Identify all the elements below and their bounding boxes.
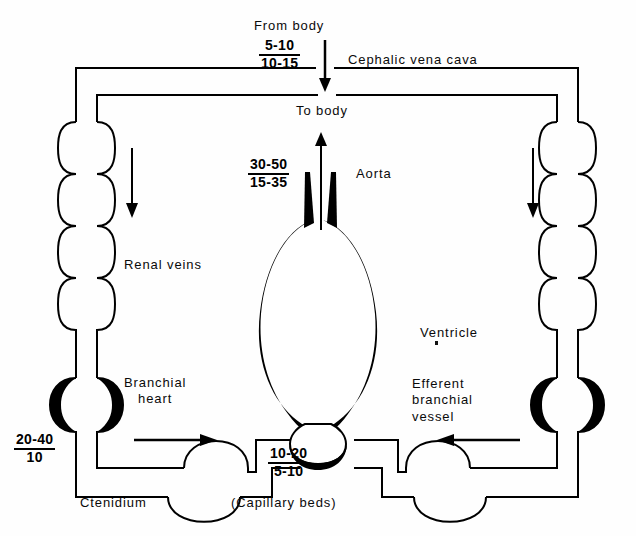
label-cephalic-vena-cava: Cephalic vena cava [348, 52, 478, 68]
pressure-branchial-heart-diastolic: 10 [14, 450, 55, 466]
label-renal-veins: Renal veins [124, 257, 202, 273]
label-branchial-heart-line2: heart [124, 391, 186, 407]
pressure-aorta-diastolic: 15-35 [248, 175, 289, 191]
pressure-efferent-branchial-systolic: 10-20 [268, 446, 309, 464]
pressure-efferent-branchial: 10-20 5-10 [268, 446, 309, 479]
label-ventricle: Ventricle [420, 325, 478, 341]
pressure-aorta: 30-50 15-35 [248, 157, 289, 190]
label-ctenidium: Ctenidium [80, 495, 147, 511]
pressure-efferent-branchial-diastolic: 5-10 [268, 464, 309, 480]
label-branchial-heart-line1: Branchial [124, 375, 186, 391]
label-efferent-line3: vessel [412, 409, 473, 425]
circulatory-diagram-svg [0, 0, 636, 536]
label-to-body: To body [296, 103, 348, 119]
label-branchial-heart: Branchial heart [124, 375, 186, 408]
pressure-vena-cava-diastolic: 10-15 [259, 56, 300, 72]
label-efferent-line1: Efferent [412, 376, 473, 392]
label-aorta: Aorta [356, 166, 392, 182]
pressure-branchial-heart: 20-40 10 [14, 432, 55, 465]
pressure-vena-cava-systolic: 5-10 [259, 38, 300, 56]
pressure-branchial-heart-systolic: 20-40 [14, 432, 55, 450]
pressure-aorta-systolic: 30-50 [248, 157, 289, 175]
label-from-body: From body [254, 18, 324, 34]
diagram-canvas: From body Cephalic vena cava To body Aor… [0, 0, 636, 536]
pressure-vena-cava: 5-10 10-15 [259, 38, 300, 71]
label-efferent-branchial-vessel: Efferent branchial vessel [412, 376, 473, 425]
label-efferent-line2: branchial [412, 392, 473, 408]
label-capillary-beds: (Capillary beds) [231, 495, 336, 511]
ventricle-label-tick [435, 341, 438, 345]
